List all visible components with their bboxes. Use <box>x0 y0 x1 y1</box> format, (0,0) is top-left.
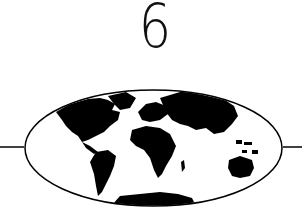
island <box>242 150 247 153</box>
island <box>252 150 258 154</box>
world-map-oval-icon <box>0 0 302 222</box>
island <box>236 140 242 144</box>
island <box>244 142 252 145</box>
